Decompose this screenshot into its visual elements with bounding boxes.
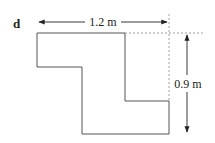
height-dimension-label: 0.9 m	[174, 77, 202, 91]
shape-outline	[37, 33, 169, 134]
width-dimension-label: 1.2 m	[89, 15, 117, 29]
shape-diagram: d 1.2 m 0.9 m	[0, 0, 215, 143]
figure-label: d	[13, 16, 21, 31]
